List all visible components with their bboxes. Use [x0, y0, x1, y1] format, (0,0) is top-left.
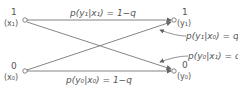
input-x0-symbol: (x₀): [4, 73, 18, 82]
label-y1-given-x0: p(y₁|x₀) = q: [186, 32, 238, 41]
node-x0: [23, 69, 27, 73]
output-y0-symbol: (y₀): [177, 72, 191, 81]
leader-y1x0: [160, 30, 186, 36]
output-y0-value: 0: [182, 61, 188, 70]
channel-diagram: 1 (x₁) 0 (x₀) 1 (y₁) 0 (y₀) p(y₁|x₁) = 1…: [0, 0, 238, 91]
label-y1-given-x1: p(y₁|x₁) = 1−q: [70, 9, 136, 18]
node-y0: [172, 69, 176, 73]
input-x0-value: 0: [11, 62, 17, 71]
input-x1-symbol: (x₁): [4, 19, 18, 28]
node-y1: [172, 18, 176, 22]
label-y0-given-x0: p(y₀|x₀) = 1−q: [66, 76, 132, 85]
output-y1-value: 1: [182, 8, 188, 17]
input-x1-value: 1: [11, 8, 17, 17]
label-y0-given-x1: p(y₀|x₁) = q: [188, 52, 238, 61]
node-x1: [23, 18, 27, 22]
output-y1-symbol: (y₁): [177, 19, 191, 28]
